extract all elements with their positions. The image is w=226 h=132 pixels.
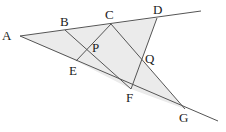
label-a: A — [2, 28, 12, 43]
label-d: D — [153, 2, 162, 17]
label-c: C — [105, 7, 114, 22]
label-b: B — [60, 14, 69, 29]
label-p: P — [92, 40, 99, 55]
label-q: Q — [145, 51, 155, 66]
label-g: G — [179, 110, 188, 125]
label-e: E — [69, 63, 77, 78]
label-f: F — [126, 90, 133, 105]
geometry-diagram: A B C D E P Q F G — [0, 0, 226, 132]
